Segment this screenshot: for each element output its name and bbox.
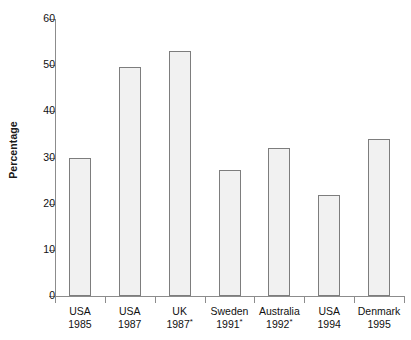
y-axis-tick-label: 50 xyxy=(11,59,55,70)
bar xyxy=(69,158,91,297)
x-axis-line xyxy=(55,296,405,297)
bar-chart-figure: Percentage 0102030405060 USA1985USA1987U… xyxy=(0,0,411,340)
y-axis-tick-label: 60 xyxy=(11,13,55,24)
x-axis-category-label: Denmark1995 xyxy=(354,305,404,331)
x-axis-category-year: 1994 xyxy=(304,318,354,331)
y-axis-tick-group: 0102030405060 xyxy=(0,0,55,340)
bar xyxy=(219,170,241,296)
x-axis-category-label: Australia1992* xyxy=(254,305,304,331)
x-axis-category-name: USA xyxy=(55,305,105,318)
x-axis-tick xyxy=(304,297,305,303)
x-axis-tick xyxy=(254,297,255,303)
y-axis-tick-label: 0 xyxy=(11,290,55,301)
bar xyxy=(318,195,340,296)
x-axis-category-label: UK1987* xyxy=(155,305,205,331)
x-axis-tick xyxy=(105,297,106,303)
x-axis-category-year: 1995 xyxy=(354,318,404,331)
x-axis-tick xyxy=(354,297,355,303)
bar xyxy=(368,139,390,296)
x-axis-tick xyxy=(205,297,206,303)
x-axis-category-name: Australia xyxy=(254,305,304,318)
plot-area xyxy=(55,19,404,296)
x-axis-category-name: Denmark xyxy=(354,305,404,318)
y-axis-tick-label: 30 xyxy=(11,152,55,163)
x-axis-category-name: Sweden xyxy=(205,305,255,318)
x-axis-tick xyxy=(155,297,156,303)
x-axis-category-footnote-marker: * xyxy=(240,317,243,326)
x-axis-category-footnote-marker: * xyxy=(289,317,292,326)
y-axis-tick-label: 40 xyxy=(11,105,55,116)
x-axis-category-year: 1992* xyxy=(254,318,304,331)
y-axis-tick-label: 10 xyxy=(11,244,55,255)
x-axis-category-label: Sweden1991* xyxy=(205,305,255,331)
x-axis-category-label: USA1994 xyxy=(304,305,354,331)
x-axis-category-year: 1987 xyxy=(105,318,155,331)
x-axis-category-year: 1985 xyxy=(55,318,105,331)
x-axis-tick xyxy=(55,297,56,303)
bar xyxy=(169,51,191,296)
x-axis-category-name: USA xyxy=(304,305,354,318)
x-axis-tick xyxy=(404,297,405,303)
y-axis-tick-label: 20 xyxy=(11,198,55,209)
x-axis-category-label: USA1987 xyxy=(105,305,155,331)
x-axis-category-year: 1991* xyxy=(205,318,255,331)
x-axis-category-name: UK xyxy=(155,305,205,318)
x-axis-category-label: USA1985 xyxy=(55,305,105,331)
bar xyxy=(268,148,290,296)
x-axis-category-name: USA xyxy=(105,305,155,318)
bar xyxy=(119,67,141,296)
x-axis-category-year: 1987* xyxy=(155,318,205,331)
x-axis-category-footnote-marker: * xyxy=(190,317,193,326)
